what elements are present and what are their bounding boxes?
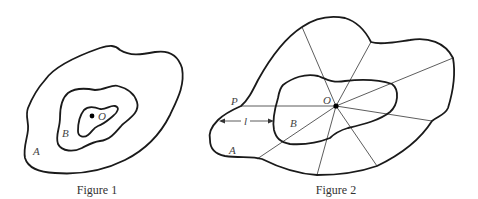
label-a: A — [32, 145, 40, 157]
label-p: P — [230, 95, 238, 107]
label-o: O — [323, 94, 331, 106]
label-l: l — [244, 115, 247, 127]
label-b: B — [290, 117, 297, 129]
label-b: B — [62, 127, 69, 139]
label-a: A — [228, 144, 236, 156]
figure-1: O B A Figure 1 — [24, 46, 182, 197]
point-o-marker — [90, 114, 95, 119]
point-o-marker — [333, 103, 338, 108]
radial-lines — [241, 27, 453, 175]
diagram-canvas: O B A Figure 1 l P O B A — [0, 0, 478, 199]
figure-1-caption: Figure 1 — [77, 183, 117, 197]
label-o: O — [98, 110, 106, 122]
figure-2-caption: Figure 2 — [316, 183, 356, 197]
figure-2: l P O B A Figure 2 — [209, 17, 454, 197]
